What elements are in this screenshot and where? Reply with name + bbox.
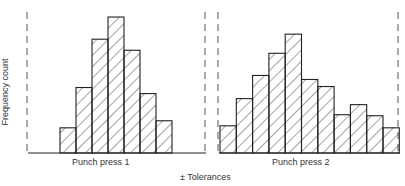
histogram-bar: [60, 128, 76, 153]
histogram-bar: [124, 50, 140, 153]
panel-punch-press-2: [218, 12, 400, 153]
y-axis-label: Frequency count: [0, 58, 10, 125]
panel-punch-press-1: [27, 12, 206, 153]
histogram-bar: [108, 17, 124, 153]
histogram-bar: [302, 79, 318, 153]
histogram-bar: [350, 105, 366, 153]
panel1-label: Punch press 1: [72, 157, 130, 167]
histogram-bar: [383, 128, 399, 153]
histogram-bar: [318, 87, 334, 153]
histogram-bar: [76, 88, 92, 153]
histogram-bar: [285, 34, 301, 153]
histogram-bar: [269, 53, 285, 153]
histogram-bar: [92, 39, 108, 153]
histogram-bar: [220, 126, 236, 153]
panel2-label: Punch press 2: [272, 157, 330, 167]
histogram-chart: [0, 0, 405, 186]
histogram-bar: [367, 116, 383, 153]
x-axis-label: ± Tolerances: [180, 172, 231, 182]
histogram-bar: [334, 115, 350, 153]
histogram-bar: [253, 75, 269, 153]
histogram-bar: [140, 94, 156, 153]
histogram-bar: [156, 121, 172, 153]
histogram-bar: [236, 99, 252, 153]
